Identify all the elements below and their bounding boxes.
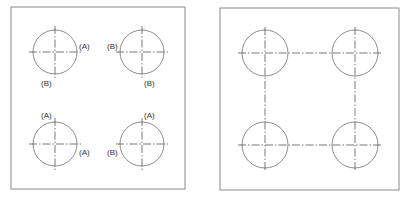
label-br-top: (A) [144, 111, 155, 120]
hole-bottom-right [116, 118, 168, 170]
hole-bottom-left [29, 118, 81, 170]
label-tr-left: (B) [107, 42, 118, 51]
label-tl-right: (A) [79, 42, 90, 51]
label-tl-bottom: (B) [41, 79, 52, 88]
label-tr-bottom: (B) [144, 79, 155, 88]
left-panel: (A) (B) (B) (B) (A) (A) (A) (B) [11, 7, 185, 189]
right-panel [220, 8, 399, 190]
label-br-left: (B) [107, 148, 118, 157]
label-bl-right: (A) [79, 148, 90, 157]
hole-top-right [116, 26, 168, 78]
label-bl-top: (A) [41, 111, 52, 120]
drawing-canvas: (A) (B) (B) (B) (A) (A) (A) (B) [0, 0, 410, 200]
right-panel-frame [220, 8, 399, 190]
left-panel-frame [11, 7, 185, 189]
hole-top-left [29, 26, 81, 78]
